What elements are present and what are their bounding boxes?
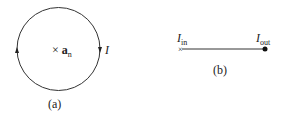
caption-b: (b)	[213, 64, 227, 76]
current-out-subscript: out	[260, 38, 270, 47]
caption-a: (a)	[48, 98, 61, 110]
arrow-down-icon	[98, 47, 102, 53]
current-in-label: Iin	[177, 32, 187, 47]
normal-marker: ×	[52, 43, 59, 57]
current-out-label: Iout	[256, 32, 270, 47]
current-label: I	[105, 44, 109, 56]
normal-vector-label: × an	[52, 44, 72, 59]
normal-vector-subscript: n	[68, 50, 72, 59]
arrow-up-icon	[15, 47, 19, 53]
current-in-subscript: in	[181, 38, 187, 47]
diagram-canvas: ×	[0, 0, 283, 119]
